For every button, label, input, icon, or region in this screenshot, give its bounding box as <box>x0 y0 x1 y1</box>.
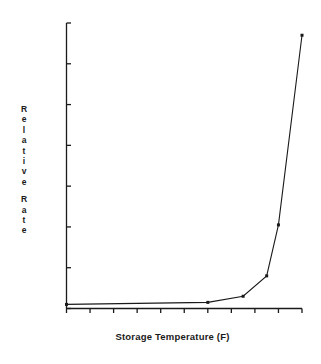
chart-figure: RelativeRate Storage Temperature (F) <box>0 0 321 364</box>
x-axis-tick-labels <box>0 0 321 364</box>
x-axis-title: Storage Temperature (F) <box>0 331 321 342</box>
